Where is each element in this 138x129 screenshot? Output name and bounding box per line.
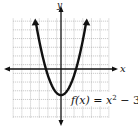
x-axis-left-arrow-icon (4, 67, 10, 72)
function-label: f(x) = x2 − 3 (70, 94, 138, 107)
y-axis-label: y (56, 0, 63, 10)
graph: x y f(x) = x2 − 3 (0, 0, 138, 129)
x-axis-label: x (120, 63, 126, 74)
curve-right-arrow-icon (83, 18, 91, 25)
axes (4, 6, 118, 126)
curve-left-arrow-icon (32, 18, 40, 25)
y-axis-down-arrow-icon (59, 120, 64, 126)
x-axis-right-arrow-icon (112, 67, 118, 72)
